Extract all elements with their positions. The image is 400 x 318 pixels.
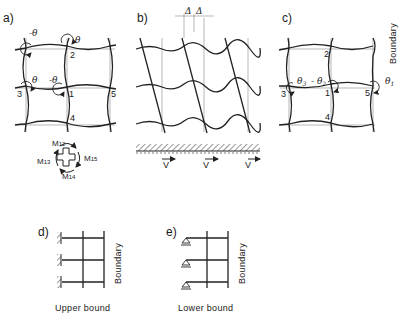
node-label: 3 bbox=[17, 89, 22, 99]
boundary-label: Boundary bbox=[388, 23, 398, 64]
ground-hatch bbox=[136, 144, 260, 151]
panel-b bbox=[136, 14, 260, 159]
node-label: 4 bbox=[70, 113, 75, 123]
rotation-label: -θ bbox=[49, 75, 58, 85]
panel-label-d: d) bbox=[38, 225, 49, 239]
moment-label-m13: M13 bbox=[37, 157, 51, 166]
node-label: 1 bbox=[325, 88, 330, 98]
velocity-label: V bbox=[163, 160, 169, 170]
rotation-label: - θ2 bbox=[311, 76, 326, 87]
node-label: 5 bbox=[111, 89, 116, 99]
undeformed-grid bbox=[15, 38, 115, 132]
node-label: 2 bbox=[70, 50, 75, 60]
panel-label-e: e) bbox=[166, 225, 177, 239]
undeformed-grid bbox=[162, 14, 248, 132]
rotation-arrows bbox=[21, 34, 74, 95]
node-label: 1 bbox=[69, 89, 74, 99]
rotation-label: θ1 bbox=[385, 76, 394, 87]
panel-d bbox=[57, 231, 104, 288]
node-label: 3 bbox=[281, 89, 286, 99]
deformed-grid bbox=[15, 38, 116, 132]
moment-label-m12: M12 bbox=[52, 139, 66, 148]
moment-label-m15: M15 bbox=[84, 154, 98, 163]
panel-label-b: b) bbox=[137, 11, 148, 25]
node-label: 2 bbox=[324, 49, 329, 59]
velocity-label: V bbox=[245, 160, 251, 170]
rotation-label: θ bbox=[75, 35, 81, 45]
rotation-label: θ3 bbox=[297, 76, 306, 87]
moment-cross bbox=[56, 143, 80, 172]
moment-label-m14: M14 bbox=[62, 172, 76, 181]
panel-label-a: a) bbox=[3, 11, 14, 25]
structural-diagram: a) -θ θ θ -θ 2 1 3 4 5 M12 M13 M15 M14 bbox=[0, 0, 400, 318]
velocity-label: V bbox=[203, 160, 209, 170]
panel-a bbox=[15, 34, 116, 132]
node-label: 5 bbox=[365, 88, 370, 98]
delta-label: Δ bbox=[195, 6, 203, 16]
rotation-label: -θ bbox=[29, 28, 38, 38]
panel-e bbox=[181, 231, 228, 289]
caption-upper-bound: Upper bound bbox=[55, 303, 110, 313]
panel-label-c: c) bbox=[282, 11, 292, 25]
node-label: 4 bbox=[325, 112, 330, 122]
rotation-label: θ bbox=[32, 75, 38, 85]
delta-label: Δ bbox=[184, 6, 192, 16]
caption-lower-bound: Lower bound bbox=[178, 303, 233, 313]
deformed-grid bbox=[136, 38, 260, 133]
boundary-label: Boundary bbox=[237, 243, 247, 284]
boundary-label: Boundary bbox=[113, 243, 123, 284]
